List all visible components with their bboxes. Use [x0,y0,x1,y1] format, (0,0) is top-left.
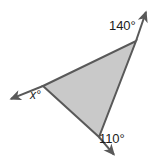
shaded-triangle [43,41,136,137]
angle-label-x-unknown: x° [30,89,41,101]
angle-label-110: 110° [99,132,125,145]
ray-upper-right [136,12,146,41]
geometry-figure: 140° 110° x° [0,0,152,160]
angle-label-140: 140° [109,19,136,32]
